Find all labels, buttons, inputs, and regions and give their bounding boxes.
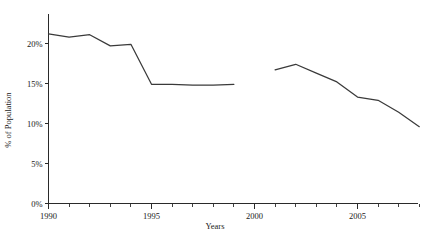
y-tick-label: 0% bbox=[31, 199, 42, 209]
y-axis bbox=[45, 14, 49, 204]
x-tick-label: 2000 bbox=[246, 211, 263, 221]
line-chart: 0%5%10%15%20% 1990199520002005 Years % o… bbox=[0, 0, 424, 237]
chart-plot-area: 0%5%10%15%20% 1990199520002005 Years % o… bbox=[0, 0, 424, 237]
y-axis-tick-labels: 0%5%10%15%20% bbox=[27, 39, 43, 209]
x-axis-tick-labels: 1990199520002005 bbox=[40, 211, 366, 221]
y-tick-label: 5% bbox=[31, 159, 42, 169]
x-axis bbox=[49, 204, 420, 209]
data-line-segment-2 bbox=[275, 64, 419, 126]
y-tick-label: 15% bbox=[27, 79, 43, 89]
data-line-segment-1 bbox=[49, 34, 234, 85]
x-tick-label: 1995 bbox=[143, 211, 160, 221]
x-axis-title: Years bbox=[206, 221, 225, 231]
data-series-group bbox=[49, 34, 420, 127]
y-tick-label: 20% bbox=[27, 39, 43, 49]
x-tick-label: 1990 bbox=[40, 211, 57, 221]
y-axis-title: % of Population bbox=[3, 92, 13, 148]
y-tick-label: 10% bbox=[27, 119, 43, 129]
x-tick-label: 2005 bbox=[349, 211, 366, 221]
